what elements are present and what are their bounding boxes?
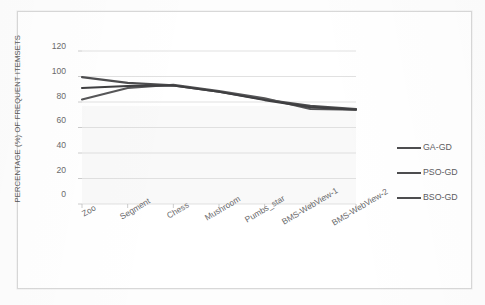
chart-figure: PERCENTAGE (%) OF FREQUENT ITEMSETS 120 …	[0, 0, 485, 305]
y-tick-100: 100	[40, 66, 66, 76]
y-axis-title: PERCENTAGE (%) OF FREQUENT ITEMSETS	[13, 43, 22, 203]
line-chart-plot	[17, 11, 472, 289]
y-tick-60: 60	[40, 115, 66, 125]
legend-label-pso-gd: PSO-GD	[423, 167, 458, 177]
legend-label-ga-gd: GA-GD	[423, 142, 452, 152]
y-tick-80: 80	[40, 91, 66, 101]
y-tick-20: 20	[40, 165, 66, 175]
legend-swatch-bso-gd	[397, 197, 421, 199]
legend-swatch-ga-gd	[397, 147, 421, 149]
y-tick-120: 120	[40, 41, 66, 51]
legend-swatch-pso-gd	[397, 172, 421, 174]
y-tick-40: 40	[40, 140, 66, 150]
legend-label-bso-gd: BSO-GD	[423, 192, 458, 202]
y-tick-0: 0	[40, 189, 66, 199]
